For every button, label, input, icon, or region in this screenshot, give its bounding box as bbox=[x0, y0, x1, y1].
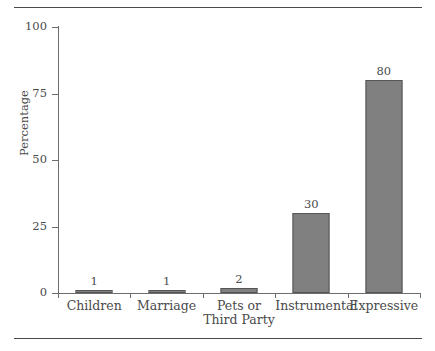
x-axis-tick bbox=[420, 293, 421, 298]
bar[interactable] bbox=[293, 213, 330, 293]
bar-slot: 2 bbox=[203, 27, 275, 293]
bar[interactable] bbox=[148, 290, 185, 293]
bar[interactable] bbox=[365, 80, 402, 293]
bar-value-label: 1 bbox=[163, 275, 170, 287]
y-axis-tick-label: 50 bbox=[0, 154, 47, 166]
bar-value-label: 30 bbox=[304, 198, 319, 210]
bar-value-label: 80 bbox=[376, 65, 391, 77]
category-label-line: Pets or bbox=[217, 298, 261, 313]
x-axis-category-label: Instrumental bbox=[275, 299, 347, 313]
bar-slot: 1 bbox=[58, 27, 130, 293]
bar-slot: 80 bbox=[348, 27, 420, 293]
bar-slot: 1 bbox=[130, 27, 202, 293]
top-horizontal-rule bbox=[14, 7, 422, 8]
x-axis-tick bbox=[130, 293, 131, 298]
x-axis-tick bbox=[203, 293, 204, 298]
category-label-line: Instrumental bbox=[275, 298, 357, 313]
category-label-line: Third Party bbox=[203, 313, 275, 327]
bar-slot: 30 bbox=[275, 27, 347, 293]
plot-area: 1123080 bbox=[58, 27, 420, 293]
bar-value-label: 2 bbox=[235, 273, 242, 285]
y-axis-tick-label: 75 bbox=[0, 88, 47, 100]
category-label-line: Marriage bbox=[137, 298, 196, 313]
figure: Percentage 0255075100 1123080 ChildrenMa… bbox=[0, 0, 435, 351]
x-axis-category-label: Children bbox=[58, 299, 130, 313]
x-axis-category-label: Marriage bbox=[130, 299, 202, 313]
category-label-line: Expressive bbox=[349, 298, 418, 313]
x-axis-category-label: Pets orThird Party bbox=[203, 299, 275, 327]
bar[interactable] bbox=[220, 288, 257, 293]
x-axis-line bbox=[58, 293, 420, 294]
x-axis-tick bbox=[58, 293, 59, 298]
x-axis-category-label: Expressive bbox=[348, 299, 420, 313]
bottom-horizontal-rule bbox=[14, 338, 422, 339]
y-axis-tick-label: 0 bbox=[0, 287, 47, 299]
y-axis-tick-label: 25 bbox=[0, 221, 47, 233]
y-axis-tick-label: 100 bbox=[0, 21, 47, 33]
bar[interactable] bbox=[76, 290, 113, 293]
category-label-line: Children bbox=[67, 298, 122, 313]
bar-value-label: 1 bbox=[91, 275, 98, 287]
